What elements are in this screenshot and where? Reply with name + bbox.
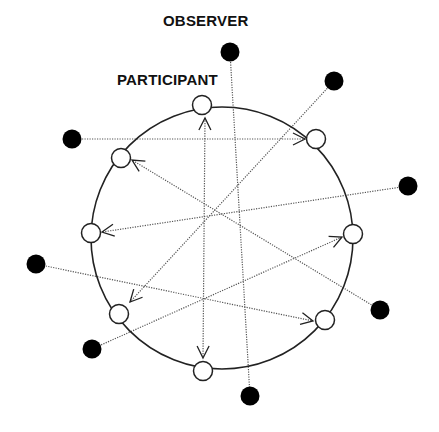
observer-node — [63, 130, 82, 149]
connection-line — [92, 237, 342, 349]
observer-node — [325, 72, 344, 91]
participant-node — [193, 96, 212, 115]
connection-line — [102, 186, 408, 232]
observer-node — [399, 177, 418, 196]
arrowhead-icon — [132, 160, 145, 171]
participant-node — [112, 149, 131, 168]
participant-node — [316, 311, 335, 330]
arrowhead-icon — [329, 236, 342, 247]
observer-node — [83, 340, 102, 359]
connection-line — [230, 52, 250, 396]
participant-label: PARTICIPANT — [117, 71, 218, 88]
observer-node — [27, 255, 46, 274]
observer-node — [221, 43, 240, 62]
arrowhead-icon — [300, 313, 313, 325]
participant-nodes — [82, 96, 363, 381]
connection-line — [130, 81, 334, 302]
connection-line — [203, 118, 205, 358]
observer-label: OBSERVER — [163, 12, 249, 29]
observer-node — [371, 301, 390, 320]
participant-node — [110, 305, 129, 324]
participant-node — [82, 224, 101, 243]
participant-node — [344, 225, 363, 244]
observer-nodes — [27, 43, 418, 406]
observer-node — [241, 387, 260, 406]
participant-node — [307, 130, 326, 149]
participant-node — [194, 362, 213, 381]
observer-participant-diagram — [0, 0, 439, 432]
